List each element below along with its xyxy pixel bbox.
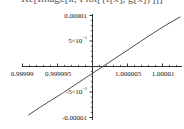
- plot-area: 0.99999 0.999995 1.000005 1.00001 0.0000…: [0, 0, 184, 129]
- y-tick-label-1: 5×10⁻⁶: [51, 37, 87, 45]
- x-tick-label-0: 0.99999: [11, 70, 34, 78]
- x-tick-label-2: 1.000005: [115, 70, 141, 78]
- x-tick-label-3: 1.00001: [152, 70, 175, 78]
- y-tick-1-exponent: ⁻⁶: [82, 36, 87, 41]
- y-tick-label-0: 0.00001: [51, 12, 87, 20]
- chart-figure: Re[Image[k, Plot[{f[x], g[x]}]]]: [0, 0, 184, 129]
- x-tick-label-1: 0.999995: [45, 70, 71, 78]
- y-tick-label-2: -5×10⁻⁶: [51, 88, 87, 96]
- y-tick-2-exponent: ⁻⁶: [82, 87, 87, 92]
- plot-canvas: [0, 0, 184, 129]
- y-tick-label-3: -0.00001: [47, 114, 87, 122]
- data-series-curve: [29, 17, 180, 115]
